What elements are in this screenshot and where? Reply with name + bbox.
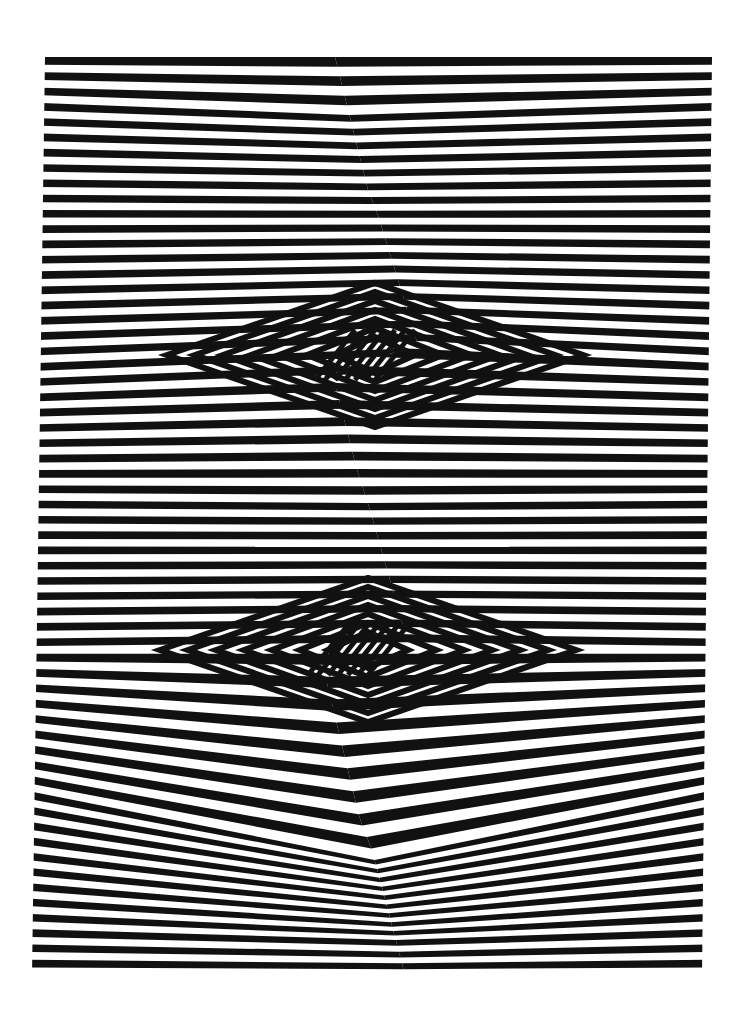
stripe <box>362 485 711 494</box>
stripe <box>381 547 711 555</box>
stripe <box>40 149 362 163</box>
stripe <box>36 417 346 432</box>
stripe <box>28 944 400 957</box>
stripe <box>402 960 706 970</box>
stripe <box>35 452 354 463</box>
stripe <box>40 103 351 122</box>
stripe <box>363 164 715 177</box>
stripe <box>35 485 365 494</box>
stripe <box>39 164 364 177</box>
stripe <box>385 238 714 248</box>
stripe <box>40 134 358 150</box>
op-art-artwork <box>0 0 749 1027</box>
stripe <box>38 238 387 248</box>
stripe <box>34 531 378 539</box>
stripe <box>399 944 707 957</box>
stripe <box>36 435 351 448</box>
stripe <box>389 576 711 585</box>
stripe <box>360 149 715 163</box>
stripe <box>34 561 387 569</box>
stripe <box>38 252 391 264</box>
stripe <box>35 501 371 511</box>
stripe <box>34 576 391 585</box>
stripe <box>34 516 374 525</box>
stripe <box>39 210 379 218</box>
stripe <box>368 501 712 511</box>
stripe <box>376 210 714 218</box>
stripe <box>39 179 368 190</box>
stripe <box>371 195 715 204</box>
stripe <box>394 266 714 279</box>
stripe <box>38 266 396 279</box>
stripe <box>39 195 374 204</box>
stripe <box>398 279 714 294</box>
stripe <box>349 103 715 122</box>
stripe <box>41 88 348 106</box>
stripe <box>372 516 711 525</box>
stripe <box>39 225 384 234</box>
stripe <box>345 88 716 106</box>
stripe <box>389 252 713 264</box>
stripe <box>376 531 711 539</box>
stripe <box>348 435 712 448</box>
stripe <box>340 72 716 86</box>
stripe <box>35 469 360 478</box>
stripe <box>352 452 711 463</box>
stripe <box>393 590 710 600</box>
stripe <box>41 72 343 86</box>
stripe <box>381 225 714 234</box>
stripe <box>40 118 355 135</box>
stripe <box>366 179 714 190</box>
stripe <box>34 547 383 555</box>
stripe <box>41 57 338 67</box>
stripe <box>28 960 403 970</box>
stripe <box>385 561 711 569</box>
stripe <box>356 134 715 150</box>
stripe <box>353 118 716 135</box>
stripe <box>357 469 712 478</box>
stripe-pattern <box>28 57 716 969</box>
stripe <box>335 57 716 67</box>
